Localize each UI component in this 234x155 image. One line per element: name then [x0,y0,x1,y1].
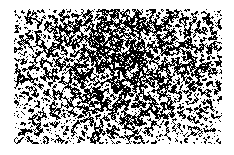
noise-image-canvas [0,0,234,155]
binary-noise-patch [14,9,222,144]
